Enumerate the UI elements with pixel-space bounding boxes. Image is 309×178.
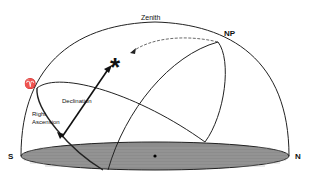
vernal-equinox-symbol: ♈ (24, 77, 36, 90)
pole-to-star-arc (132, 38, 218, 52)
right-ascension-label-line1: Right (32, 111, 46, 117)
north-label: N (295, 152, 301, 161)
star-icon: * (110, 52, 121, 82)
hour-circle-right (205, 42, 225, 142)
zenith-label: Zenith (141, 14, 161, 21)
right-ascension-label-line2: Ascension (32, 119, 60, 125)
pole-arrowhead (130, 48, 136, 54)
north-pole-label: NP (224, 29, 236, 38)
celestial-sphere-diagram: Zenith NP S N ♈ Declination Right Ascens… (0, 0, 309, 178)
south-label: S (8, 152, 14, 161)
declination-label: Declination (62, 98, 92, 104)
observer-dot (153, 154, 156, 157)
celestial-equator (37, 82, 205, 142)
